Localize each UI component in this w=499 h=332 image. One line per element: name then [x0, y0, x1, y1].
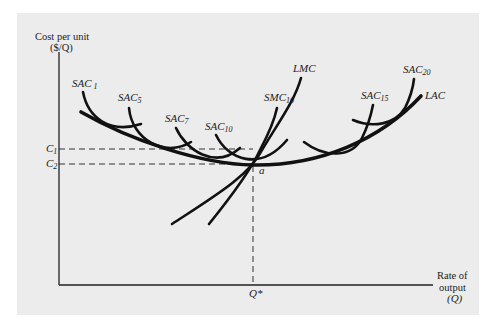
q-star-label: Q* — [249, 287, 263, 299]
cost-curves-diagram: Cost per unit ($/Q) Rate of output (Q) C… — [0, 0, 499, 332]
y-axis-title-line2: ($/Q) — [50, 42, 73, 54]
lmc-label: LMC — [292, 62, 316, 74]
point-a-label: a — [259, 164, 265, 176]
x-axis-title-line3: (Q) — [447, 292, 463, 305]
lac-label: LAC — [424, 89, 446, 101]
x-axis-title-line1: Rate of — [437, 270, 468, 281]
y-axis-title-line1: Cost per unit — [35, 31, 89, 42]
